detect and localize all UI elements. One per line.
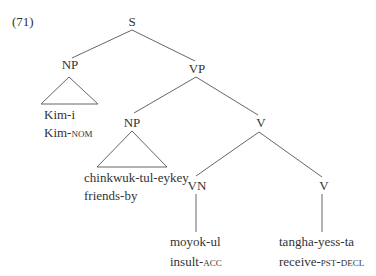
leaf-verb-gloss: receive-pst-decl [279, 255, 364, 269]
example-number: (71) [12, 14, 34, 30]
node-s: S [128, 15, 135, 29]
gloss-stem: insult- [170, 254, 203, 269]
gloss-tag: acc [203, 254, 222, 269]
gloss-tag: nom [71, 125, 92, 140]
leaf-adjunct-form: chinkwuk-tul-eykey [84, 171, 189, 185]
branch-vp-np [134, 77, 196, 113]
gloss-stem: Kim- [44, 125, 71, 140]
leaf-object-form: moyok-ul [170, 235, 221, 249]
branch-s-vp [132, 30, 195, 61]
node-np-adjunct: NP [124, 116, 141, 130]
branch-v-v [259, 132, 322, 177]
branch-s-np [72, 30, 132, 58]
leaf-adjunct-gloss: friends-by [84, 189, 137, 203]
triangle-np-adjunct [97, 131, 167, 167]
node-v-complex: V [256, 116, 265, 130]
triangle-np-subject [41, 77, 98, 104]
node-vp: VP [189, 62, 206, 76]
leaf-subject-form: Kim-i [44, 108, 75, 122]
gloss-tag: pst-decl [321, 254, 364, 269]
node-np-subject: NP [62, 58, 79, 72]
branch-vp-v [196, 77, 258, 115]
node-v-head: V [319, 179, 328, 193]
branch-v-vn [196, 132, 259, 176]
node-vn: VN [188, 179, 207, 193]
gloss-stem: receive- [279, 254, 321, 269]
leaf-object-gloss: insult-acc [170, 255, 222, 269]
leaf-verb-form: tangha-yess-ta [279, 235, 354, 249]
leaf-subject-gloss: Kim-nom [44, 126, 92, 140]
